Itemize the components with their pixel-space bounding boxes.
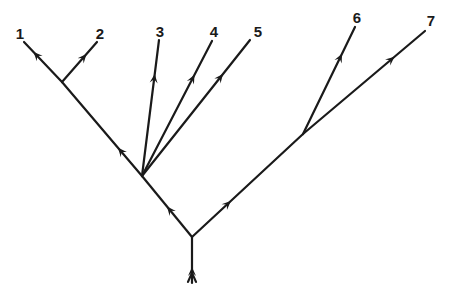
- leaf-label-2: 2: [96, 26, 104, 41]
- edge-C-t1: [24, 42, 62, 82]
- edge-B-t7: [303, 31, 425, 134]
- leaf-label-6: 6: [353, 10, 361, 25]
- tree-diagram: 1 2 3 4 5 6 7: [0, 0, 455, 301]
- edge-A-t3: [142, 40, 159, 176]
- leaf-label-5: 5: [254, 24, 262, 39]
- edge-A-C: [62, 82, 142, 176]
- edge-root-B: [192, 134, 303, 237]
- leaf-label-1: 1: [16, 26, 24, 41]
- edge-A-t4: [142, 41, 212, 176]
- edge-A-t5: [142, 40, 250, 176]
- edge-B-t6: [303, 27, 355, 134]
- leaf-label-4: 4: [210, 24, 218, 39]
- tree-edges: [0, 0, 455, 301]
- leaf-label-7: 7: [427, 13, 435, 28]
- edge-C-t2: [62, 42, 97, 82]
- leaf-label-3: 3: [156, 24, 164, 39]
